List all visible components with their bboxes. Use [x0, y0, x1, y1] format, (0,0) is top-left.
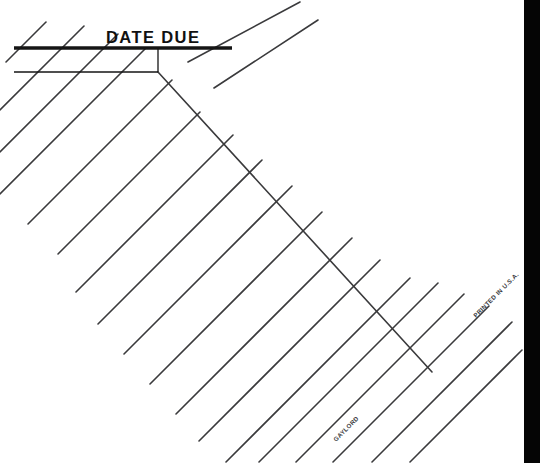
date-due-heading: DATE DUE: [106, 28, 200, 46]
scanned-page: DATE DUE GAYLORDPRINTED IN U.S.A.: [0, 0, 540, 463]
scanner-edge-shadow: [524, 0, 540, 463]
scan-canvas: DATE DUE GAYLORDPRINTED IN U.S.A.: [0, 0, 540, 463]
